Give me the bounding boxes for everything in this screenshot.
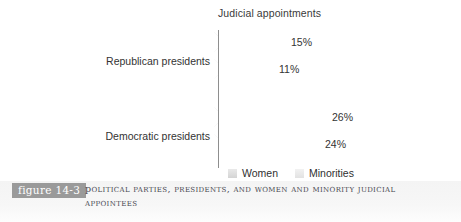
bar-republican-minorities: 11% [219,59,273,79]
category-label-republican-presidents: Republican presidents [106,55,210,67]
bar-democratic-women: 26% [219,107,326,127]
bar-value-label: 26% [332,111,353,123]
chart-title: Judicial appointments [218,7,321,19]
plot-area: Republican presidents Democratic preside… [0,26,461,171]
bar-democratic-minorities: 24% [219,134,319,154]
category-label-democratic-presidents: Democratic presidents [106,130,210,142]
legend-label: Women [242,167,278,179]
bar-value-label: 24% [325,138,346,150]
legend-swatch-icon [295,169,304,178]
legend-swatch-icon [228,169,237,178]
legend-item-women: Women [228,167,278,179]
bar-value-label: 11% [279,63,299,75]
figure-number-tag: figure 14-3 [12,183,86,198]
legend-item-minorities: Minorities [295,167,354,179]
chart-legend: Women Minorities [228,167,354,179]
figure-caption-text: Political Parties, Presidents, and Women… [85,182,435,209]
bar-republican-women: 15% [219,32,285,52]
legend-label: Minorities [309,167,354,179]
figure-caption-band: figure 14-3 Political Parties, President… [0,181,461,222]
bar-value-label: 15% [291,36,312,48]
